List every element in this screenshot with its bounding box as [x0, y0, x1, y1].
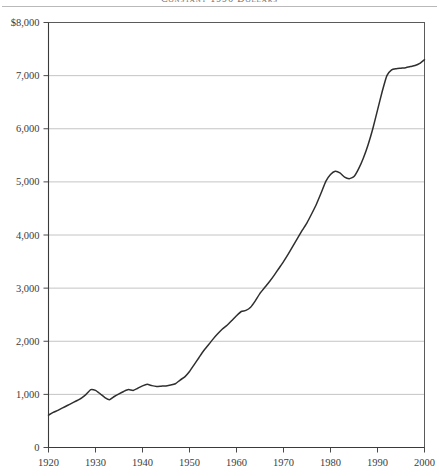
x-axis-tick-label: 1960: [226, 457, 247, 468]
y-axis-tick-label: $8,000: [11, 17, 40, 28]
x-axis-labels-group: 192019301940195019601970198019902000: [38, 457, 435, 468]
x-axis-tick-label: 1970: [273, 457, 294, 468]
y-axis-tick-label: 3,000: [16, 283, 40, 294]
figure-container: Constant 1996 Dollars 01,0002,0003,0004,…: [0, 0, 439, 476]
gridlines-group: [49, 76, 425, 395]
data-series-line: [49, 60, 425, 415]
y-axis-tick-label: 6,000: [16, 123, 40, 134]
y-axis-labels-group: 01,0002,0003,0004,0005,0006,0007,000$8,0…: [11, 17, 40, 453]
y-axis-tick-label: 2,000: [16, 336, 40, 347]
x-axis-tick-label: 1980: [320, 457, 341, 468]
x-axis-tick-label: 1920: [38, 457, 59, 468]
y-axis-tick-label: 0: [34, 442, 39, 453]
y-axis-tick-label: 4,000: [16, 230, 40, 241]
x-axis-tick-label: 1950: [179, 457, 200, 468]
x-axis-tick-label: 1990: [367, 457, 388, 468]
x-axis-tick-label: 1930: [85, 457, 106, 468]
line-chart: 01,0002,0003,0004,0005,0006,0007,000$8,0…: [0, 0, 439, 476]
y-axis-tick-label: 1,000: [16, 389, 40, 400]
x-axis-tick-label: 2000: [414, 457, 435, 468]
axis-ticks-group: [44, 23, 425, 453]
x-axis-tick-label: 1940: [132, 457, 153, 468]
y-axis-tick-label: 5,000: [16, 176, 40, 187]
y-axis-tick-label: 7,000: [16, 70, 40, 81]
